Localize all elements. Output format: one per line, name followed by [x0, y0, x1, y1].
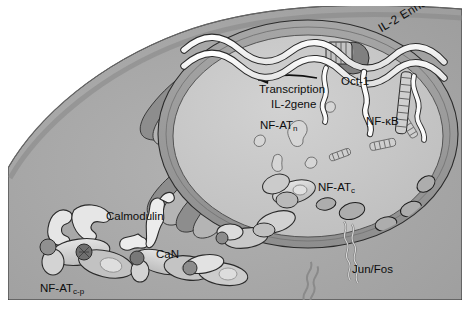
label-can: CaN — [156, 249, 179, 261]
label-nfat-cp-subscript: c-p — [73, 287, 84, 296]
can-metal-site — [130, 251, 144, 265]
label-il2-gene: IL-2gene — [271, 99, 316, 111]
label-nfat-cp: NF-ATc-p — [40, 283, 84, 296]
label-nfat-n-text: NF-AT — [260, 119, 293, 131]
label-nfat-n: NF-ATn — [260, 120, 297, 133]
label-nfkb: NF-κB — [366, 116, 399, 128]
particle — [325, 102, 335, 113]
cell-diagram-svg — [8, 6, 462, 300]
particle — [272, 154, 282, 171]
particle — [254, 135, 265, 146]
figure-root: Transcription IL-2gene NF-ATn Oct-1 NF-κ… — [0, 0, 470, 312]
label-calmodulin: Calmodulin — [106, 211, 164, 223]
illustration-canvas: Transcription IL-2gene NF-ATn Oct-1 NF-κ… — [8, 6, 462, 300]
label-nfat-n-subscript: n — [293, 124, 297, 133]
label-oct1: Oct-1 — [341, 76, 369, 88]
label-jun-fos: Jun/Fos — [352, 264, 393, 276]
label-transcription: Transcription — [259, 84, 325, 96]
phosphate-group — [40, 239, 56, 255]
label-nfat-c-text: NF-AT — [318, 181, 351, 193]
label-nfat-c-subscript: c — [351, 186, 355, 195]
label-nfat-cp-text: NF-AT — [40, 282, 73, 294]
label-nfat-c: NF-ATc — [318, 182, 355, 195]
